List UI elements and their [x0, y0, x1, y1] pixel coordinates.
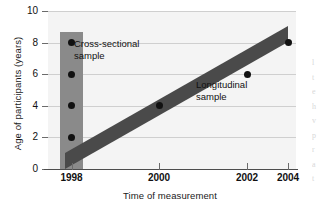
- y-tick-label: 6: [0, 68, 38, 79]
- figure: Age of participants (years) Time of meas…: [0, 0, 334, 214]
- page-text-fragment: t: [312, 172, 334, 187]
- data-point: [285, 39, 292, 46]
- page-text-fragment: h: [312, 100, 334, 115]
- page-text-fragment: t: [312, 71, 334, 86]
- data-point: [68, 134, 75, 141]
- y-tick-label: 0: [0, 163, 38, 174]
- data-point: [156, 102, 163, 109]
- y-tick: [42, 11, 48, 12]
- x-tick-label: 1998: [50, 172, 94, 183]
- annotation-cross-sectional-line2: sample: [74, 50, 139, 62]
- x-tick: [72, 163, 73, 170]
- annotation-cross-sectional: Cross-sectional sample: [74, 38, 139, 62]
- y-tick-label: 4: [0, 100, 38, 111]
- x-tick: [288, 163, 289, 170]
- y-tick-label: 10: [0, 5, 38, 16]
- x-tick: [159, 163, 160, 170]
- annotation-longitudinal-line1: Longitudinal: [196, 79, 247, 91]
- annotation-longitudinal-line2: sample: [196, 91, 247, 103]
- y-tick: [42, 74, 48, 75]
- x-tick-label: 2000: [137, 172, 181, 183]
- annotation-longitudinal: Longitudinal sample: [196, 79, 247, 103]
- data-point: [68, 71, 75, 78]
- x-tick-label: 2002: [225, 172, 269, 183]
- x-tick-label: 2004: [266, 172, 310, 183]
- y-tick-label: 2: [0, 131, 38, 142]
- y-tick: [42, 106, 48, 107]
- plot-area: Cross-sectional sample Longitudinal samp…: [48, 11, 296, 169]
- page-text-fragment: l: [312, 56, 334, 71]
- longitudinal-band: [48, 11, 296, 169]
- x-axis-label: Time of measurement: [46, 190, 294, 201]
- x-tick: [247, 163, 248, 170]
- y-tick: [42, 137, 48, 138]
- page-text-fragment: a: [312, 158, 334, 173]
- x-axis-line: [44, 169, 298, 170]
- page-text-bleed: ltehvprat: [312, 56, 334, 206]
- page-text-fragment: v: [312, 114, 334, 129]
- page-text-fragment: p: [312, 129, 334, 144]
- page-text-fragment: e: [312, 85, 334, 100]
- annotation-cross-sectional-line1: Cross-sectional: [74, 38, 139, 50]
- y-tick-label: 8: [0, 37, 38, 48]
- y-tick: [42, 43, 48, 44]
- data-point: [244, 71, 251, 78]
- page-text-fragment: r: [312, 143, 334, 158]
